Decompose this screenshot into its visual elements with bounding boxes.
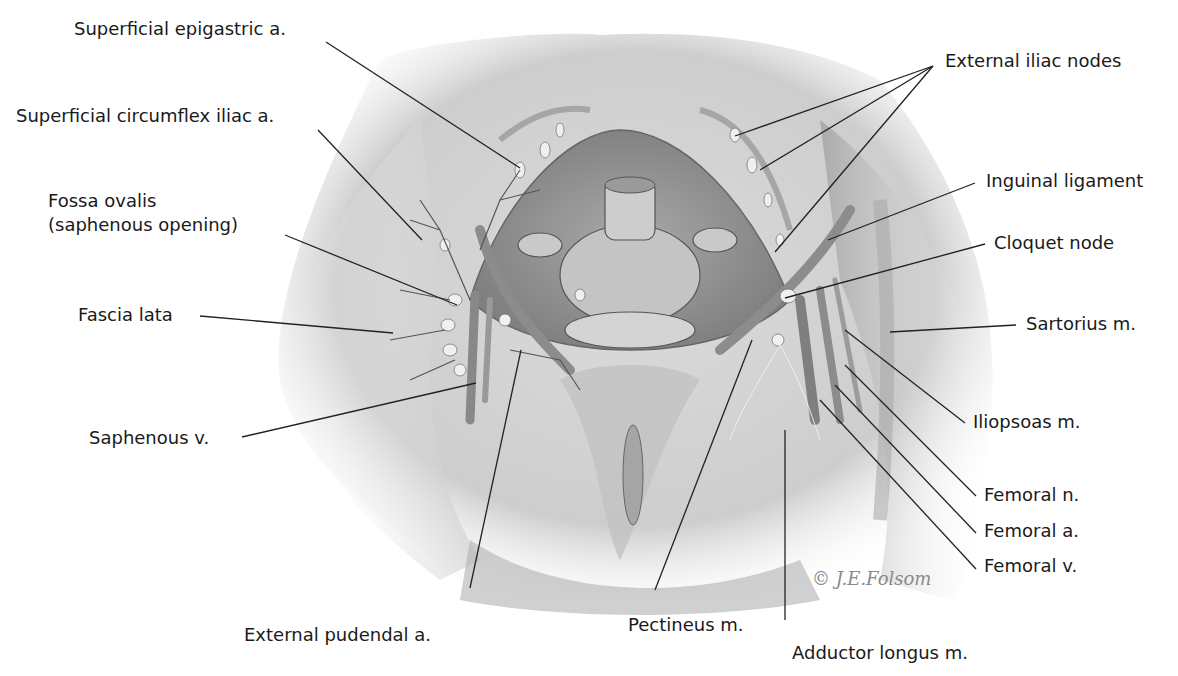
label-adductor-longus-muscle: Adductor longus m. xyxy=(792,642,968,664)
label-superficial-epigastric-artery: Superficial epigastric a. xyxy=(74,18,286,40)
label-saphenous-opening: (saphenous opening) xyxy=(48,214,238,236)
label-iliopsoas-muscle: Iliopsoas m. xyxy=(973,411,1081,433)
label-superficial-circumflex-iliac-artery: Superficial circumflex iliac a. xyxy=(16,105,274,127)
label-pectineus-muscle: Pectineus m. xyxy=(628,614,744,636)
label-cloquet-node: Cloquet node xyxy=(994,232,1114,254)
label-femoral-vein: Femoral v. xyxy=(984,555,1077,577)
label-femoral-nerve: Femoral n. xyxy=(984,484,1079,506)
label-femoral-artery: Femoral a. xyxy=(984,520,1079,542)
label-external-iliac-nodes: External iliac nodes xyxy=(945,50,1121,72)
label-external-pudendal-artery: External pudendal a. xyxy=(244,624,431,646)
label-sartorius-muscle: Sartorius m. xyxy=(1026,313,1136,335)
label-fossa-ovalis: Fossa ovalis xyxy=(48,190,156,212)
label-saphenous-vein: Saphenous v. xyxy=(89,427,209,449)
label-inguinal-ligament: Inguinal ligament xyxy=(986,170,1143,192)
artist-signature: © J.E.Folsom xyxy=(812,568,931,589)
label-fascia-lata: Fascia lata xyxy=(78,304,173,326)
